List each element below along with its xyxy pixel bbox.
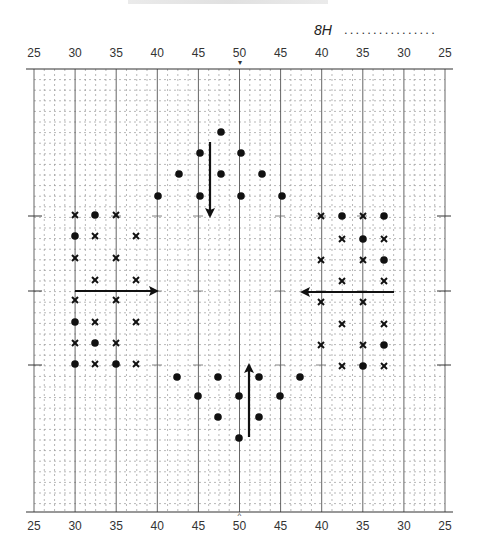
cross-mark (339, 321, 345, 327)
filled-dot-mark (235, 392, 243, 400)
filled-dot-mark (258, 170, 266, 178)
cross-mark (318, 299, 324, 305)
filled-dot-mark (237, 192, 245, 200)
filled-dot-mark (194, 392, 202, 400)
filled-dot-mark (175, 170, 183, 178)
filled-dot-mark (217, 170, 225, 178)
filled-dot-mark (296, 373, 304, 381)
cross-mark (318, 257, 324, 263)
cross-mark (339, 236, 345, 242)
cross-mark (133, 233, 139, 239)
filled-dot-mark (214, 373, 222, 381)
filled-dot-mark (380, 341, 388, 349)
filled-dot-mark (359, 362, 367, 370)
filled-dot-mark (380, 212, 388, 220)
cross-mark (92, 319, 98, 325)
filled-dot-mark (255, 413, 263, 421)
filled-dot-mark (214, 413, 222, 421)
filled-dot-mark (237, 149, 245, 157)
cross-mark (133, 277, 139, 283)
filled-dot-mark (173, 373, 181, 381)
filled-dot-mark (71, 318, 79, 326)
center-marker-bottom: ^ (225, 511, 255, 520)
filled-dot-mark (112, 360, 120, 368)
filled-dot-mark (154, 192, 162, 200)
filled-dot-mark (338, 212, 346, 220)
filled-dot-mark (278, 192, 286, 200)
filled-dot-mark (196, 192, 204, 200)
cross-mark (381, 278, 387, 284)
filled-dot-mark (71, 232, 79, 240)
filled-dot-mark (217, 128, 225, 136)
cross-mark (92, 233, 98, 239)
cross-mark (381, 363, 387, 369)
center-marker-top: ▾ (225, 58, 255, 67)
filled-dot-mark (196, 149, 204, 157)
cross-mark (381, 321, 387, 327)
filled-dot-mark (359, 235, 367, 243)
filled-dot-mark (91, 339, 99, 347)
cross-mark (318, 342, 324, 348)
filled-dot-mark (91, 211, 99, 219)
perimetry-grid-chart (0, 0, 478, 556)
cross-mark (133, 319, 139, 325)
filled-dot-mark (71, 360, 79, 368)
cross-mark (381, 236, 387, 242)
filled-dot-mark (235, 434, 243, 442)
cross-mark (92, 277, 98, 283)
filled-dot-mark (276, 392, 284, 400)
filled-dot-mark (255, 373, 263, 381)
filled-dot-mark (380, 256, 388, 264)
